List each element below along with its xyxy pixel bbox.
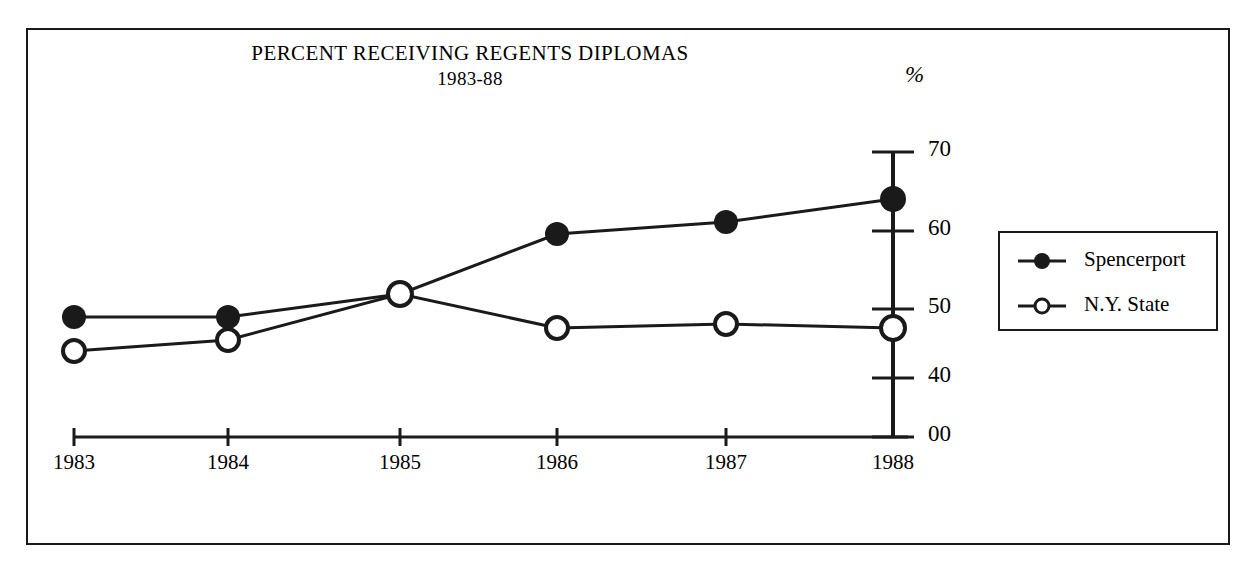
x-axis-label-1985: 1985 (355, 450, 445, 475)
x-axis-label-1986: 1986 (512, 450, 602, 475)
x-axis-label-1984: 1984 (183, 450, 273, 475)
data-point-crossover-1985 (388, 282, 412, 306)
filled-circle-icon (1016, 252, 1068, 270)
x-axis-label-1987: 1987 (681, 450, 771, 475)
legend-item-ny-state: N.Y. State (1000, 289, 1216, 323)
legend-label-ny-state: N.Y. State (1084, 289, 1169, 319)
open-circle-icon (1016, 297, 1068, 315)
data-point (881, 316, 905, 340)
x-axis-label-1988: 1988 (848, 450, 938, 475)
series-line-spencerport (74, 199, 893, 317)
data-point (545, 222, 569, 246)
x-axis-label-1983: 1983 (29, 450, 119, 475)
data-point (546, 317, 568, 339)
legend-label-spencerport: Spencerport (1084, 244, 1185, 274)
series-markers-ny-state (63, 313, 905, 362)
series-line-ny-state (74, 294, 893, 351)
y-axis-label-70: 70 (928, 136, 951, 162)
y-axis-label-50: 50 (928, 293, 951, 319)
legend: Spencerport N.Y. State (998, 231, 1218, 331)
data-point (714, 210, 738, 234)
legend-item-spencerport: Spencerport (1000, 244, 1216, 278)
data-point (63, 340, 85, 362)
y-axis-label-00: 00 (928, 421, 951, 447)
data-point (216, 305, 240, 329)
data-point (62, 305, 86, 329)
data-point (715, 313, 737, 335)
series-markers-spencerport (62, 186, 906, 329)
chart-figure: PERCENT RECEIVING REGENTS DIPLOMAS 1983-… (0, 0, 1253, 571)
y-axis-label-60: 60 (928, 215, 951, 241)
y-axis-label-40: 40 (928, 362, 951, 388)
data-point (880, 186, 906, 212)
axis-lines (74, 152, 908, 437)
data-point (217, 329, 239, 351)
